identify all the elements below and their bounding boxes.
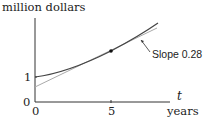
- y-axis-label: million dollars: [2, 2, 86, 14]
- x-tick-label-0: 0: [32, 106, 39, 118]
- y-tick-label-1: 1: [24, 72, 31, 84]
- growth-curve: [35, 23, 158, 77]
- x-axis-variable: t: [177, 90, 182, 102]
- x-tick-label-5: 5: [108, 106, 115, 118]
- slope-annotation: Slope 0.28: [152, 49, 202, 60]
- y-tick-label-0: 0: [23, 97, 30, 109]
- x-axis-units: years: [167, 106, 199, 118]
- tangent-point: [109, 49, 113, 53]
